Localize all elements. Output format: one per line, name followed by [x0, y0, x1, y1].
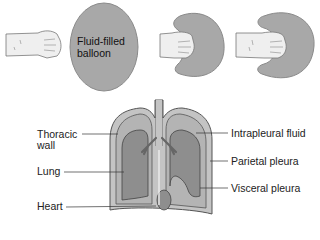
fist-icon	[236, 32, 286, 58]
fist-icon	[6, 31, 61, 58]
fist-icon	[160, 32, 194, 58]
parietal-pleura-label: Parietal pleura	[231, 156, 299, 167]
thoracic-wall-label-line2: wall	[37, 140, 77, 151]
balloon-label-line2: balloon	[77, 47, 125, 59]
balloon-label: Fluid-filled balloon	[77, 35, 125, 59]
heart-label: Heart	[37, 201, 63, 212]
visceral-pleura-label: Visceral pleura	[231, 183, 300, 194]
intrapleural-fluid-label: Intrapleural fluid	[231, 128, 306, 139]
thorax-diagram	[110, 100, 212, 214]
thoracic-wall-label: Thoracic wall	[37, 129, 77, 151]
lung-label: Lung	[37, 166, 60, 177]
balloon-label-line1: Fluid-filled	[77, 35, 125, 47]
